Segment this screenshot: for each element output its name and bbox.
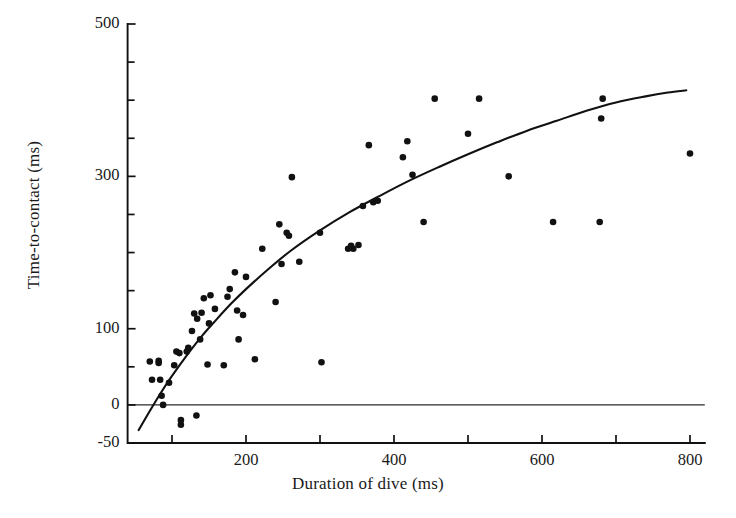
data-point [550, 219, 557, 226]
data-point [374, 197, 381, 204]
data-point [243, 274, 250, 281]
data-point [193, 412, 200, 419]
data-point [194, 316, 201, 323]
data-point [431, 95, 438, 102]
data-point [197, 336, 204, 343]
data-point [420, 219, 427, 226]
data-point [158, 392, 165, 399]
data-point [404, 138, 411, 145]
data-point [476, 95, 483, 102]
data-point [221, 362, 228, 369]
data-point [289, 174, 296, 181]
data-point [178, 421, 185, 428]
data-point [155, 357, 162, 364]
y-tick-label--50: -50 [64, 432, 120, 452]
data-point [185, 344, 192, 351]
data-point [252, 356, 259, 363]
data-point [147, 358, 154, 365]
data-point [400, 154, 407, 161]
axis-spine [128, 24, 705, 443]
data-point [687, 150, 694, 157]
x-tick-label-800: 800 [660, 450, 720, 470]
data-point [278, 261, 285, 268]
y-axis-title: Time-to-contact (ms) [24, 95, 44, 335]
data-point [286, 232, 293, 239]
data-point [465, 130, 472, 137]
data-point [189, 328, 196, 335]
data-point [206, 320, 213, 327]
data-point [207, 292, 214, 299]
data-point [224, 293, 231, 300]
data-point [235, 336, 242, 343]
data-point [409, 172, 416, 179]
data-point [149, 376, 156, 383]
data-point [355, 242, 362, 249]
y-tick-label-300: 300 [64, 165, 120, 185]
y-tick-label-0: 0 [64, 394, 120, 414]
y-tick-label-100: 100 [64, 318, 120, 338]
data-point [232, 269, 239, 276]
data-point [204, 361, 211, 368]
data-point [596, 219, 603, 226]
data-point [296, 258, 303, 265]
data-point [360, 203, 367, 210]
data-point [226, 286, 233, 293]
y-tick-label-500: 500 [64, 13, 120, 33]
data-point [157, 376, 164, 383]
data-point [599, 95, 606, 102]
data-point [272, 299, 279, 306]
data-point [171, 362, 178, 369]
data-point [259, 245, 266, 252]
data-point [276, 221, 283, 228]
data-point [240, 312, 247, 319]
x-tick-label-400: 400 [364, 450, 424, 470]
data-point [160, 402, 167, 409]
data-point [598, 115, 605, 122]
data-point [505, 173, 512, 180]
data-point [198, 309, 205, 316]
data-point [176, 350, 183, 357]
data-point [166, 380, 173, 387]
data-point [201, 295, 208, 302]
x-axis-title: Duration of dive (ms) [0, 474, 736, 494]
data-point [318, 359, 325, 366]
data-point [366, 142, 373, 149]
data-point [317, 229, 324, 236]
x-tick-label-200: 200 [216, 450, 276, 470]
fitted-curve [139, 90, 687, 430]
figure-container: Duration of dive (ms) Time-to-contact (m… [0, 0, 736, 518]
data-point [234, 307, 241, 314]
x-tick-label-600: 600 [512, 450, 572, 470]
data-point [212, 306, 219, 313]
